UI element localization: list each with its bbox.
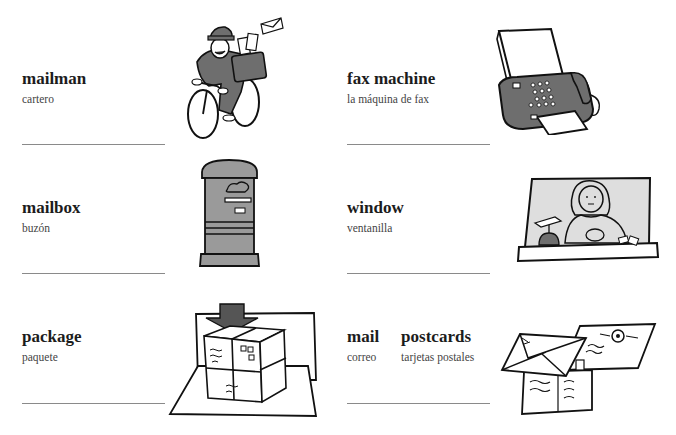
mailbox-illustration [199, 158, 261, 268]
vocab-entry-mailman: mailman cartero [22, 70, 86, 106]
term-mailman: mailman [22, 70, 86, 88]
vocab-entry-postcards: postcards tarjetas postales [401, 328, 474, 364]
vocab-entry-package: package paquete [22, 328, 82, 364]
term-mailbox: mailbox [22, 199, 81, 217]
answer-line-window [347, 273, 490, 274]
term-package: package [22, 328, 82, 346]
term-window: window [347, 199, 404, 217]
vocab-entry-mail: mail correo [347, 328, 379, 364]
translation-mailman: cartero [22, 92, 86, 106]
vocab-entry-fax-machine: fax machine la máquina de fax [347, 70, 435, 106]
answer-line-mail-postcards [347, 403, 490, 404]
translation-window: ventanilla [347, 221, 404, 235]
translation-package: paquete [22, 350, 82, 364]
window-clerk-illustration [515, 175, 660, 265]
mailman-illustration [183, 14, 288, 139]
vocab-entry-mail-postcards: mail correo postcards tarjetas postales [347, 328, 474, 364]
term-fax-machine: fax machine [347, 70, 435, 88]
answer-line-mailman [22, 144, 165, 145]
translation-mail: correo [347, 350, 379, 364]
fax-machine-illustration [493, 25, 618, 135]
term-mail: mail [347, 328, 379, 346]
translation-postcards: tarjetas postales [401, 350, 474, 364]
translation-mailbox: buzón [22, 221, 81, 235]
vocab-entry-mailbox: mailbox buzón [22, 199, 81, 235]
vocab-entry-window: window ventanilla [347, 199, 404, 235]
term-postcards: postcards [401, 328, 474, 346]
answer-line-package [22, 403, 165, 404]
package-illustration [168, 302, 318, 420]
answer-line-fax-machine [347, 144, 490, 145]
answer-line-mailbox [22, 273, 165, 274]
mail-postcards-illustration [500, 320, 660, 415]
translation-fax-machine: la máquina de fax [347, 92, 435, 106]
